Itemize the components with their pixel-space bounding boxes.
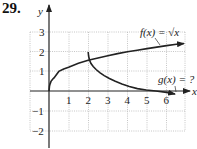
y-tick-1: 1 bbox=[39, 65, 45, 77]
g-label: g(x) = ? bbox=[158, 73, 195, 86]
x-tick-2: 2 bbox=[86, 94, 92, 106]
y-tick-2: 2 bbox=[39, 46, 45, 58]
y-tick-neg1: −1 bbox=[32, 105, 44, 117]
y-tick-neg2: −2 bbox=[32, 125, 44, 137]
x-tick-6: 6 bbox=[164, 94, 170, 106]
function-graph: y x 1 2 3 4 5 6 3 2 1 −1 −2 f(x) = √x g(… bbox=[0, 0, 197, 149]
x-axis-label: x bbox=[191, 85, 197, 97]
x-tick-5: 5 bbox=[144, 94, 150, 106]
x-tick-4: 4 bbox=[125, 94, 131, 106]
x-tick-1: 1 bbox=[66, 94, 72, 106]
y-axis-label: y bbox=[37, 5, 43, 17]
f-label: f(x) = √x bbox=[140, 26, 179, 39]
y-tick-3: 3 bbox=[39, 26, 45, 38]
x-tick-3: 3 bbox=[105, 94, 111, 106]
f-leader-line bbox=[155, 38, 160, 45]
